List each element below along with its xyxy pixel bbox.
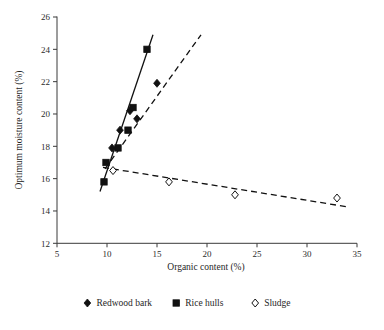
legend-label-redwood-bark: Redwood bark [96,298,152,308]
y-tick-label-24: 24 [41,45,51,55]
y-tick-label-22: 22 [41,77,50,87]
legend-label-sludge: Sludge [264,298,290,308]
x-tick-label-5: 5 [55,249,60,259]
y-tick-label-26: 26 [41,12,51,22]
x-tick-label-15: 15 [153,249,163,259]
data-point-rice-hulls-1 [103,159,109,165]
y-tick-label-20: 20 [41,109,51,119]
y-tick-label-18: 18 [41,142,51,152]
scatter-plot-svg: 1214161820222426 5101520253035 Organic c… [0,0,384,330]
data-point-rice-hulls-0 [101,179,107,185]
x-tick-label-20: 20 [203,249,213,259]
data-point-rice-hulls-2 [115,145,121,151]
x-axis-title: Organic content (%) [167,262,244,273]
chart-figure: 1214161820222426 5101520253035 Organic c… [0,0,384,330]
legend-label-rice-hulls: Rice hulls [185,298,224,308]
x-tick-label-30: 30 [303,249,313,259]
y-tick-label-12: 12 [41,239,50,249]
y-tick-label-14: 14 [41,206,51,216]
y-axis-title: Optimum moisture content (%) [14,71,25,190]
x-tick-label-25: 25 [253,249,263,259]
x-tick-label-10: 10 [103,249,113,259]
chart-background [0,0,384,330]
y-tick-label-16: 16 [41,174,51,184]
data-point-rice-hulls-5 [144,46,150,52]
data-point-rice-hulls-3 [125,127,131,133]
data-point-rice-hulls-4 [130,104,136,110]
legend-marker-rice-hulls [173,300,179,306]
x-tick-label-35: 35 [353,249,363,259]
